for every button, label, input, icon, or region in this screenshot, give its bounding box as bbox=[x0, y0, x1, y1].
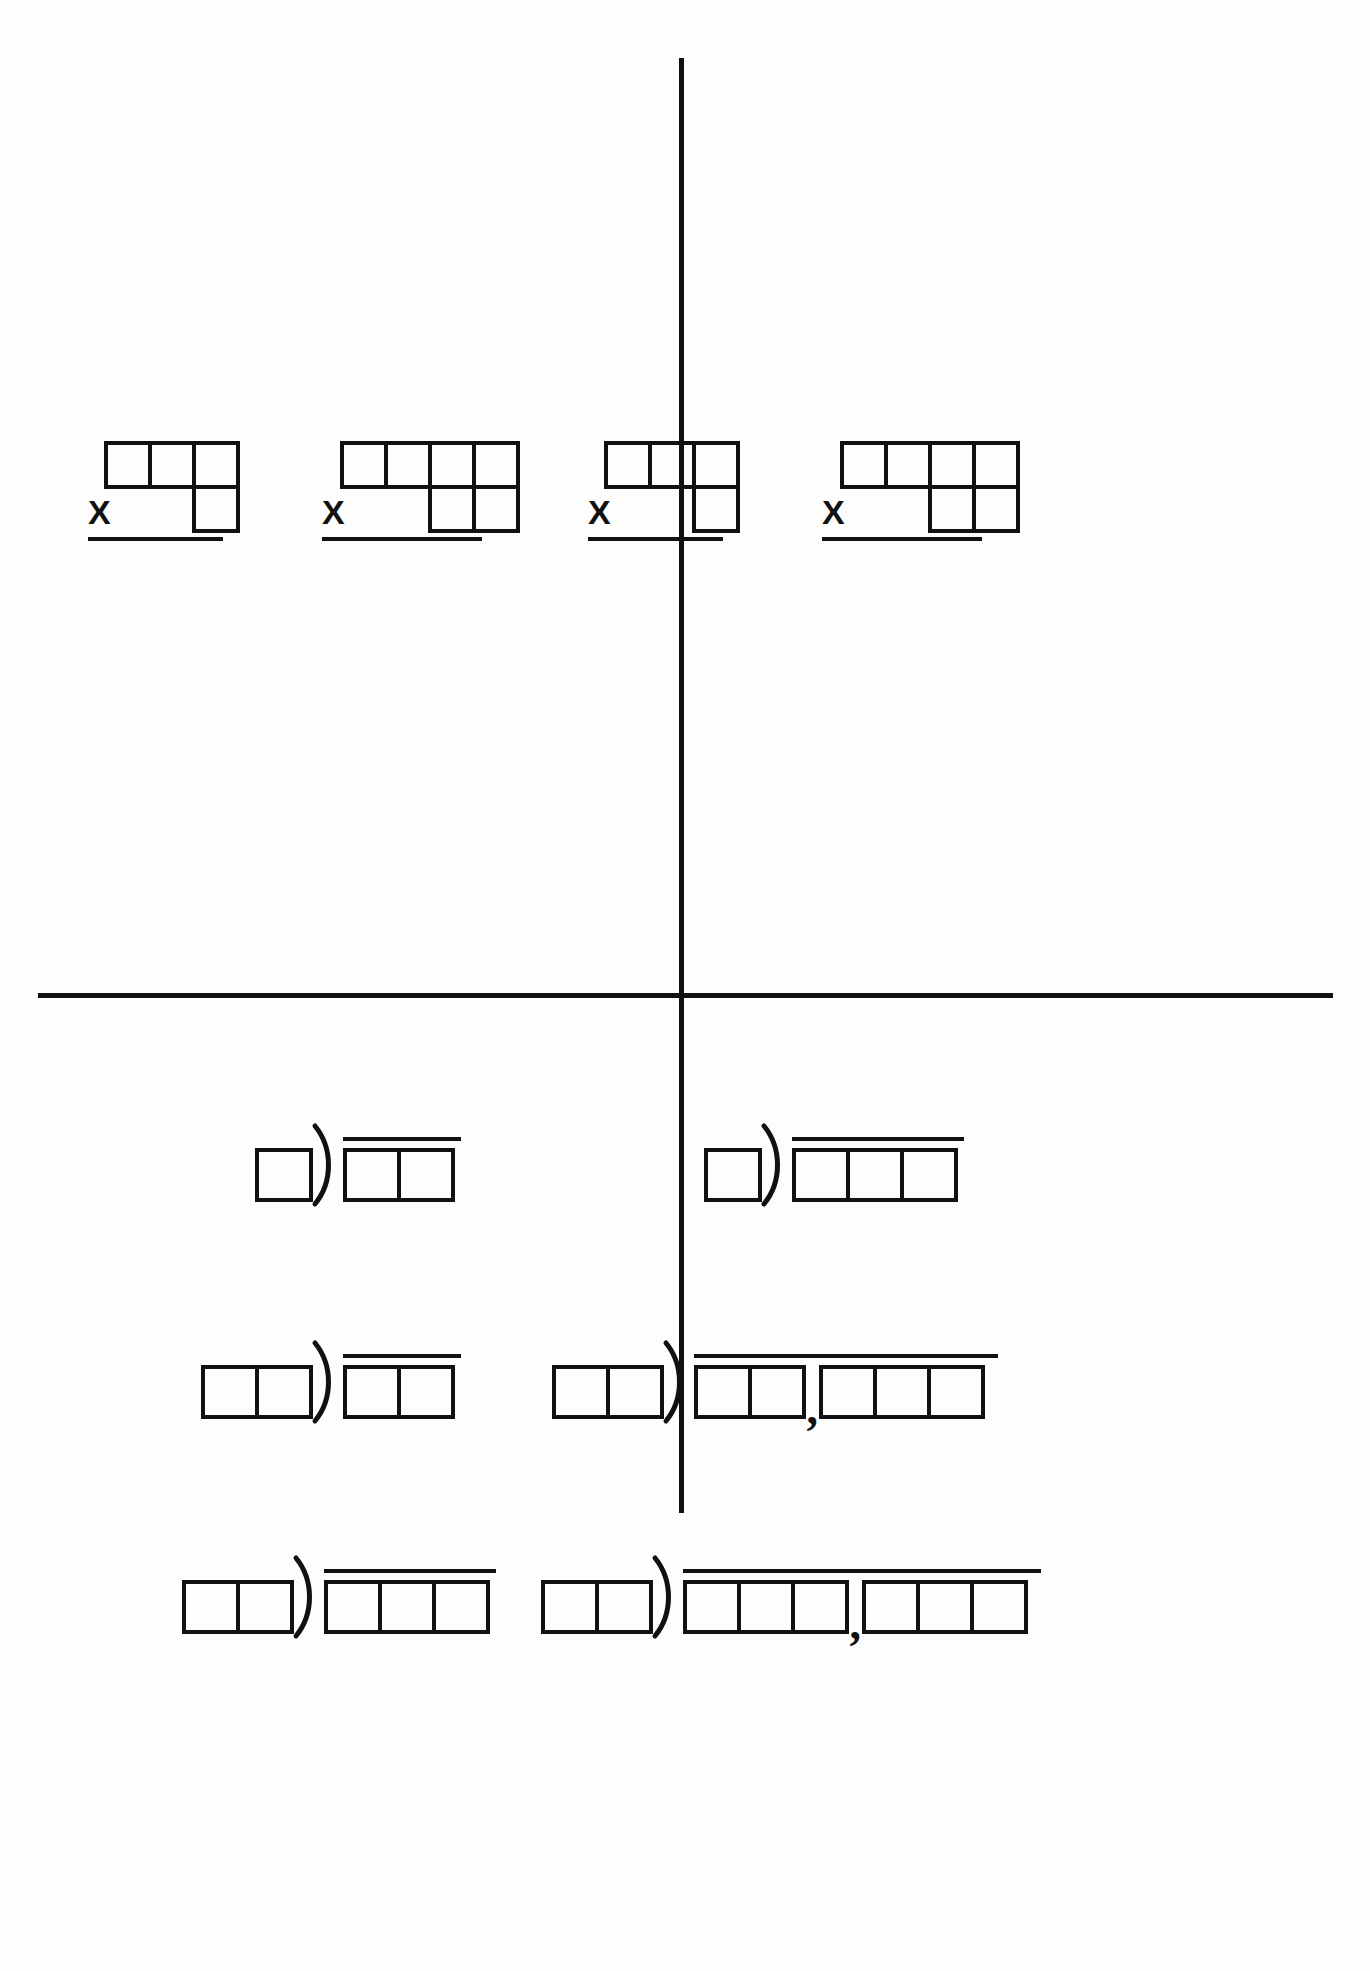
digit-box[interactable] bbox=[552, 1365, 610, 1419]
digit-box[interactable] bbox=[972, 441, 1020, 489]
multiplication-operator: X bbox=[322, 495, 345, 529]
digit-box[interactable] bbox=[791, 1580, 849, 1634]
digit-box[interactable] bbox=[900, 1148, 958, 1202]
digit-box[interactable] bbox=[928, 441, 976, 489]
digit-box[interactable] bbox=[972, 485, 1020, 533]
digit-box[interactable] bbox=[604, 441, 652, 489]
divisor-group bbox=[704, 1148, 762, 1202]
digit-box[interactable] bbox=[472, 485, 520, 533]
digit-box[interactable] bbox=[748, 1365, 806, 1419]
digit-box[interactable] bbox=[343, 1365, 401, 1419]
digit-box[interactable] bbox=[541, 1580, 599, 1634]
digit-box[interactable] bbox=[819, 1365, 877, 1419]
multiplicand-row bbox=[604, 441, 740, 489]
long-division-problem: , bbox=[552, 1345, 986, 1419]
dividend-boxes: , bbox=[694, 1365, 986, 1419]
digit-box[interactable] bbox=[606, 1365, 664, 1419]
long-division-problem bbox=[255, 1128, 455, 1202]
answer-line bbox=[822, 537, 982, 541]
multiplier-row bbox=[840, 485, 1020, 533]
digit-box[interactable] bbox=[683, 1580, 741, 1634]
digit-box[interactable] bbox=[595, 1580, 653, 1634]
divisor-group bbox=[255, 1148, 313, 1202]
digit-box[interactable] bbox=[472, 441, 520, 489]
digit-box[interactable] bbox=[928, 485, 976, 533]
digit-box[interactable] bbox=[384, 441, 432, 489]
vertical-divider bbox=[679, 58, 684, 1513]
multiplier-row bbox=[604, 485, 740, 533]
digit-box[interactable] bbox=[236, 1580, 294, 1634]
worksheet-page: XXXX ,, bbox=[0, 0, 1370, 1971]
digit-box[interactable] bbox=[340, 441, 388, 489]
answer-line bbox=[88, 537, 223, 541]
multiplier-row bbox=[104, 485, 240, 533]
digit-box[interactable] bbox=[324, 1580, 382, 1634]
multiplicand-row bbox=[840, 441, 1020, 489]
multiplication-problem bbox=[604, 441, 740, 533]
multiplication-operator: X bbox=[588, 495, 611, 529]
dividend-group bbox=[343, 1137, 455, 1202]
digit-box[interactable] bbox=[846, 1148, 904, 1202]
multiplication-problem bbox=[840, 441, 1020, 533]
division-bracket-icon bbox=[653, 1560, 683, 1634]
long-division-problem: , bbox=[541, 1560, 1029, 1634]
dividend-group bbox=[792, 1137, 958, 1202]
digit-box[interactable] bbox=[397, 1148, 455, 1202]
digit-box[interactable] bbox=[648, 441, 696, 489]
digit-box[interactable] bbox=[737, 1580, 795, 1634]
digit-box[interactable] bbox=[192, 485, 240, 533]
digit-box[interactable] bbox=[927, 1365, 985, 1419]
vinculum-line bbox=[343, 1354, 461, 1358]
multiplication-grid bbox=[840, 441, 1020, 533]
digit-box[interactable] bbox=[255, 1365, 313, 1419]
divisor-group bbox=[552, 1365, 664, 1419]
thousands-comma: , bbox=[849, 1608, 863, 1640]
vinculum-line bbox=[324, 1569, 496, 1573]
digit-box[interactable] bbox=[432, 1580, 490, 1634]
digit-box[interactable] bbox=[873, 1365, 931, 1419]
digit-box[interactable] bbox=[970, 1580, 1028, 1634]
digit-box[interactable] bbox=[840, 441, 888, 489]
digit-box[interactable] bbox=[104, 441, 152, 489]
multiplication-problem bbox=[104, 441, 240, 533]
digit-box[interactable] bbox=[692, 485, 740, 533]
digit-box[interactable] bbox=[692, 441, 740, 489]
vinculum-line bbox=[792, 1137, 964, 1141]
digit-box[interactable] bbox=[428, 441, 476, 489]
division-bracket-icon bbox=[313, 1128, 343, 1202]
dividend-boxes bbox=[343, 1365, 455, 1419]
digit-box[interactable] bbox=[343, 1148, 401, 1202]
multiplication-grid bbox=[340, 441, 520, 533]
digit-box[interactable] bbox=[201, 1365, 259, 1419]
multiplication-grid bbox=[104, 441, 240, 533]
digit-box[interactable] bbox=[255, 1148, 313, 1202]
long-division-problem bbox=[201, 1345, 455, 1419]
digit-box[interactable] bbox=[397, 1365, 455, 1419]
dividend-boxes bbox=[343, 1148, 455, 1202]
digit-box[interactable] bbox=[916, 1580, 974, 1634]
digit-box[interactable] bbox=[704, 1148, 762, 1202]
horizontal-divider bbox=[38, 993, 1333, 998]
digit-box[interactable] bbox=[378, 1580, 436, 1634]
thousands-comma: , bbox=[806, 1393, 820, 1425]
digit-box[interactable] bbox=[792, 1148, 850, 1202]
multiplication-operator: X bbox=[822, 495, 845, 529]
digit-box[interactable] bbox=[182, 1580, 240, 1634]
division-bracket-icon bbox=[313, 1345, 343, 1419]
digit-box[interactable] bbox=[694, 1365, 752, 1419]
dividend-boxes: , bbox=[683, 1580, 1029, 1634]
vinculum-line bbox=[683, 1569, 1041, 1573]
answer-line bbox=[322, 537, 482, 541]
dividend-boxes bbox=[324, 1580, 490, 1634]
digit-box[interactable] bbox=[862, 1580, 920, 1634]
multiplicand-row bbox=[104, 441, 240, 489]
digit-box[interactable] bbox=[884, 441, 932, 489]
multiplicand-row bbox=[340, 441, 520, 489]
digit-box[interactable] bbox=[192, 441, 240, 489]
dividend-group: , bbox=[694, 1354, 986, 1419]
digit-box[interactable] bbox=[148, 441, 196, 489]
digit-box[interactable] bbox=[428, 485, 476, 533]
dividend-group bbox=[324, 1569, 490, 1634]
long-division-problem bbox=[182, 1560, 490, 1634]
dividend-group: , bbox=[683, 1569, 1029, 1634]
